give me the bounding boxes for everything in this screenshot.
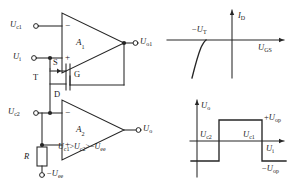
label-transistor-gate: G [74,70,80,79]
plot1-x-arrow [279,38,284,42]
plot2-annotation-plus-uop: +Uop [264,113,281,122]
label-uc1: Uc1 [10,20,22,29]
label-uc2: Uc2 [8,107,20,116]
pin-a2-inverting: − [65,107,70,117]
plot2-y-arrow [195,100,199,105]
terminal-uee-node [40,173,45,178]
label-uo: Uo [143,124,152,133]
terminal-uc2-node [34,111,39,116]
label-transistor-t: T [33,73,38,82]
plot2-x-axis-label: Ui [266,144,274,153]
plot2-annotation-minus-uop: −Uop [262,164,279,173]
plot2-x-arrow [279,139,284,143]
figure-canvas: Uc1 Ui Uo1 Uc2 Uo −Uee R A1 A2 − + − + T… [0,0,297,184]
label-opamp-a2: A2 [76,124,85,136]
plot1-threshold-annotation: −UT [192,25,207,34]
terminal-uc1-node [34,24,39,29]
plot-transfer-curve [192,40,206,78]
terminal-uo1-node [133,41,138,46]
opamp-a2-body [62,100,124,160]
plot1-y-arrow [230,10,234,15]
schematic-vector-layer [0,0,297,184]
label-ui: Ui [13,52,21,61]
label-opamp-a1: A1 [76,37,85,49]
plot2-annotation-uc1: Uc1 [243,130,255,139]
plot2-y-axis-label: Uo [201,101,210,110]
label-transistor-source: S [53,58,58,67]
label-transistor-drain: D [54,90,60,99]
plot1-x-axis-label: UGS [258,43,272,52]
terminal-uo-node [136,128,141,133]
terminal-ui-node [32,56,37,61]
condition-expression: Uc1>Uc2>−Uee [58,143,106,151]
mosfet-source-arrow [57,68,61,73]
plot2-annotation-uc2: Uc2 [200,130,212,139]
plot1-y-axis-label: ID [238,11,245,20]
junction-uc2-drain [48,111,52,115]
pin-a1-inverting: − [65,20,70,30]
label-resistor-r: R [24,152,29,161]
resistor-r [37,147,47,173]
label-uee: −Uee [47,169,63,178]
pin-a1-noninverting: + [65,52,70,62]
opamp-a1-body [62,13,124,73]
label-uo1: Uo1 [140,37,152,46]
